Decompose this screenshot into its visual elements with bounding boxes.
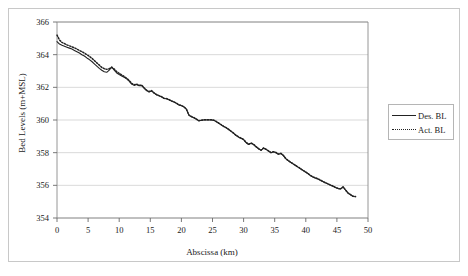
- figure-container: Bed Levels (m+MSL) Abscissa (km) 3543563…: [0, 0, 468, 276]
- y-tick-label-358: 358: [23, 148, 49, 158]
- series-line-act-bl: [57, 35, 356, 197]
- x-tick-label-0: 0: [45, 225, 69, 235]
- x-tick-label-35: 35: [263, 225, 287, 235]
- x-tick-label-45: 45: [325, 225, 349, 235]
- legend-line-solid-icon: [392, 111, 416, 121]
- legend-item-act-bl: Act. BL: [392, 123, 450, 137]
- y-tick-label-366: 366: [23, 17, 49, 27]
- legend-label-act-bl: Act. BL: [416, 125, 445, 135]
- y-tick-label-360: 360: [23, 115, 49, 125]
- y-tick-label-356: 356: [23, 180, 49, 190]
- x-axis-title: Abscissa (km): [152, 247, 272, 257]
- x-tick-label-5: 5: [76, 225, 100, 235]
- x-tick-label-15: 15: [138, 225, 162, 235]
- chart-legend: Des. BL Act. BL: [388, 104, 454, 140]
- tick-marks: [53, 22, 368, 222]
- x-tick-label-25: 25: [201, 225, 225, 235]
- y-tick-label-362: 362: [23, 82, 49, 92]
- x-tick-label-40: 40: [294, 225, 318, 235]
- y-tick-label-354: 354: [23, 213, 49, 223]
- series-line-des-bl: [57, 42, 356, 197]
- legend-label-des-bl: Des. BL: [416, 111, 446, 121]
- legend-line-dotted-icon: [392, 125, 416, 135]
- y-tick-label-364: 364: [23, 50, 49, 60]
- x-tick-label-20: 20: [169, 225, 193, 235]
- data-series-group: [57, 35, 356, 197]
- legend-item-des-bl: Des. BL: [392, 109, 450, 123]
- x-tick-label-30: 30: [232, 225, 256, 235]
- x-tick-label-10: 10: [107, 225, 131, 235]
- x-tick-label-50: 50: [356, 225, 380, 235]
